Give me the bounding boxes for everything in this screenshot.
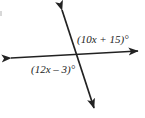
intersecting-lines-drawing bbox=[0, 0, 145, 118]
diagonal-line bbox=[62, 10, 94, 108]
angle-label-upper-right: (10x + 15)° bbox=[77, 33, 129, 45]
scan-artifact bbox=[0, 11, 2, 16]
horizontal-line bbox=[11, 51, 138, 58]
angle-label-lower-left: (12x – 3)° bbox=[31, 63, 75, 75]
geometry-figure: (10x + 15)° (12x – 3)° bbox=[0, 0, 145, 118]
